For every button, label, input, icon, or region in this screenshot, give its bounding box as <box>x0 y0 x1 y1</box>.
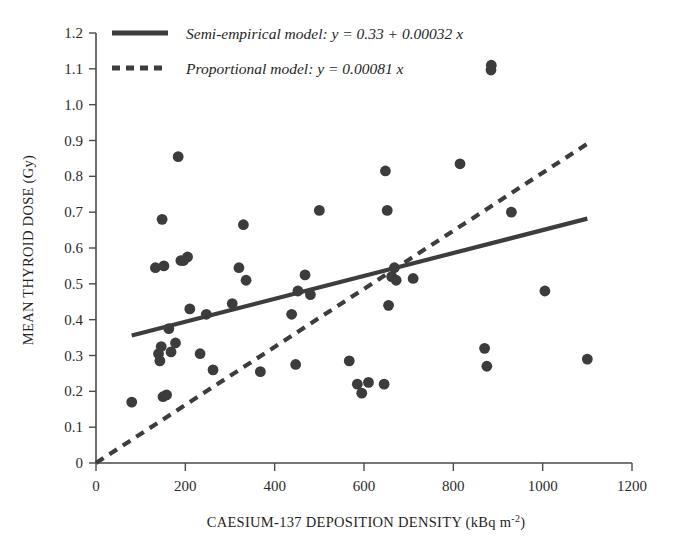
data-point-33 <box>356 388 367 399</box>
scatter-plot-figure: 00.10.20.30.40.50.60.70.80.91.01.11.2 02… <box>0 0 677 557</box>
data-point-45 <box>481 361 492 372</box>
data-point-16 <box>184 304 195 315</box>
data-point-15 <box>182 252 193 263</box>
data-point-22 <box>238 219 249 230</box>
data-point-30 <box>314 205 325 216</box>
data-point-42 <box>408 273 419 284</box>
y-tick-label-1: 0.1 <box>64 419 83 435</box>
x-tick-label-6: 1200 <box>617 478 647 494</box>
y-tick-label-0: 0 <box>76 455 84 471</box>
legend-label-proportional: Proportional model: y = 0.00081 x <box>185 60 404 77</box>
data-point-7 <box>158 261 169 272</box>
data-point-37 <box>382 205 393 216</box>
x-tick-label-5: 1000 <box>528 478 558 494</box>
data-point-8 <box>161 390 172 401</box>
data-point-34 <box>363 377 374 388</box>
y-tick-label-9: 0.9 <box>64 133 83 149</box>
data-point-0 <box>126 397 137 408</box>
x-axis-title: CAESIUM-137 DEPOSITION DENSITY (kBq m-2) <box>207 513 526 531</box>
data-point-5 <box>157 214 168 225</box>
proportional-model-line <box>96 144 587 463</box>
semi-empirical-model-line <box>132 219 588 336</box>
y-tick-label-12: 1.2 <box>64 25 83 41</box>
y-tick-label-2: 0.2 <box>64 383 83 399</box>
data-point-3 <box>154 355 165 366</box>
x-axis-ticks: 020040060080010001200 <box>92 463 647 494</box>
y-tick-label-3: 0.3 <box>64 348 83 364</box>
x-tick-label-2: 400 <box>263 478 286 494</box>
y-tick-label-11: 1.1 <box>64 61 83 77</box>
data-point-44 <box>479 343 490 354</box>
y-tick-label-4: 0.4 <box>64 312 83 328</box>
data-point-43 <box>455 158 466 169</box>
y-tick-label-7: 0.7 <box>64 204 83 220</box>
data-point-29 <box>305 289 316 300</box>
data-point-31 <box>344 355 355 366</box>
y-tick-label-10: 1.0 <box>64 97 83 113</box>
y-tick-label-6: 0.6 <box>64 240 83 256</box>
data-point-35 <box>379 379 390 390</box>
data-point-41 <box>391 275 402 286</box>
data-point-38 <box>383 300 394 311</box>
data-point-40 <box>389 262 400 273</box>
x-tick-label-4: 800 <box>442 478 465 494</box>
data-point-20 <box>227 298 238 309</box>
data-point-18 <box>201 309 212 320</box>
data-point-49 <box>582 354 593 365</box>
legend-label-semi-empirical: Semi-empirical model: y = 0.33 + 0.00032… <box>186 25 463 42</box>
data-point-21 <box>234 262 245 273</box>
data-point-47 <box>506 207 517 218</box>
data-point-48 <box>540 286 551 297</box>
x-tick-label-0: 0 <box>92 478 100 494</box>
chart-canvas: 00.10.20.30.40.50.60.70.80.91.01.11.2 02… <box>0 0 677 557</box>
legend-point-marker <box>486 65 497 76</box>
y-tick-label-5: 0.5 <box>64 276 83 292</box>
data-point-27 <box>292 286 303 297</box>
data-point-9 <box>163 323 174 334</box>
y-tick-label-8: 0.8 <box>64 168 83 184</box>
chart-legend: Semi-empirical model: y = 0.33 + 0.00032… <box>112 25 496 77</box>
data-point-17 <box>195 348 206 359</box>
data-point-12 <box>173 151 184 162</box>
y-axis-ticks: 00.10.20.30.40.50.60.70.80.91.01.11.2 <box>64 25 96 471</box>
data-point-24 <box>255 366 266 377</box>
data-point-28 <box>300 269 311 280</box>
data-point-4 <box>156 341 167 352</box>
y-axis-title: MEAN THYROID DOSE (Gy) <box>20 155 37 345</box>
data-point-19 <box>208 364 219 375</box>
data-point-36 <box>380 166 391 177</box>
x-tick-label-1: 200 <box>174 478 197 494</box>
data-point-26 <box>290 359 301 370</box>
x-tick-label-3: 600 <box>353 478 376 494</box>
data-point-23 <box>241 275 252 286</box>
data-point-11 <box>170 338 181 349</box>
data-point-25 <box>286 309 297 320</box>
